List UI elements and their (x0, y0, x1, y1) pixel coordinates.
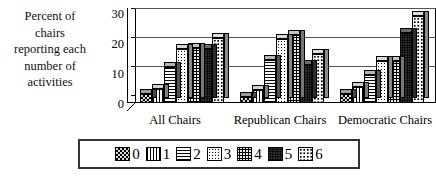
bar-side-face (164, 84, 169, 99)
legend-swatch-6 (298, 147, 313, 161)
bar-republican-chairs-series-0 (240, 97, 252, 103)
legend-item-1[interactable]: 1 (146, 147, 171, 162)
legend-item-5[interactable]: 5 (268, 147, 293, 162)
y-tick-10: 10 (100, 68, 124, 81)
chart-legend: 0123456 (78, 139, 360, 169)
bar-side-face (400, 56, 405, 98)
legend-swatch-1 (146, 147, 161, 161)
bar-side-face (188, 44, 193, 98)
bar-side-face (288, 34, 293, 98)
bar-chart-figure: Percent of chairs reporting each number … (0, 0, 436, 182)
y-tick-30: 30 (100, 8, 124, 21)
plot-area: 30 20 10 0 (100, 8, 436, 112)
bar-group-democratic-chairs (340, 8, 430, 103)
legend-label-4: 4 (254, 147, 262, 162)
legend-label-6: 6 (315, 147, 323, 162)
bar-all-chairs-series-0 (140, 94, 152, 103)
legend-item-0[interactable]: 0 (115, 147, 140, 162)
plot-side-wall (127, 8, 136, 103)
legend-swatch-4 (237, 147, 252, 161)
legend-label-3: 3 (224, 147, 232, 162)
category-label-all-chairs: All Chairs (120, 113, 230, 128)
category-label-republican-chairs: Republican Chairs (220, 113, 340, 128)
y-tick-20: 20 (100, 38, 124, 51)
tick-mark-20 (131, 37, 135, 38)
bar-group-republican-chairs (240, 8, 330, 103)
y-axis-tick-labels: 30 20 10 0 (100, 8, 124, 112)
y-axis-title-line-1: Percent of (2, 8, 98, 25)
bar-front-face (340, 94, 352, 103)
y-tick-0: 0 (100, 98, 124, 111)
bar-side-face (364, 82, 369, 98)
tick-mark-10 (131, 66, 135, 67)
y-axis-title-line-3: reporting each (2, 41, 98, 58)
tick-mark-30 (131, 8, 135, 9)
legend-swatch-0 (115, 147, 130, 161)
bar-side-face (176, 62, 181, 98)
bar-side-face (412, 28, 417, 98)
legend-label-5: 5 (285, 147, 293, 162)
bar-democratic-chairs-series-0 (340, 94, 352, 103)
bar-side-face (376, 70, 381, 98)
bar-series-container (136, 8, 436, 103)
bar-side-face (264, 85, 269, 98)
legend-label-0: 0 (132, 147, 140, 162)
legend-label-1: 1 (163, 147, 171, 162)
bar-side-face (152, 89, 157, 98)
legend-item-6[interactable]: 6 (298, 147, 323, 162)
plot-panel (127, 8, 436, 111)
bar-side-face (224, 33, 229, 98)
x-axis-category-labels: All Chairs Republican Chairs Democratic … (100, 113, 436, 129)
tick-mark-0 (131, 95, 135, 96)
y-axis-title-line-2: chairs (2, 25, 98, 42)
bar-side-face (352, 89, 357, 98)
bar-side-face (212, 44, 217, 98)
bar-side-face (424, 11, 429, 98)
y-axis-title-line-5: activities (2, 74, 98, 91)
bar-side-face (312, 60, 317, 98)
category-label-democratic-chairs: Democratic Chairs (326, 113, 436, 128)
legend-item-2[interactable]: 2 (176, 147, 201, 162)
y-axis-title-line-4: number of (2, 58, 98, 75)
bar-group-all-chairs (140, 8, 230, 103)
bar-side-face (200, 43, 205, 98)
bar-front-face (240, 97, 252, 103)
legend-label-2: 2 (193, 147, 201, 162)
bar-side-face (252, 92, 257, 98)
bar-side-face (276, 55, 281, 99)
plot-floor-diagonal (127, 102, 136, 111)
legend-item-4[interactable]: 4 (237, 147, 262, 162)
bar-side-face (324, 49, 329, 98)
bar-front-face (140, 94, 152, 103)
legend-swatch-5 (268, 147, 283, 161)
legend-swatch-3 (207, 147, 222, 161)
y-axis-title: Percent of chairs reporting each number … (2, 8, 98, 91)
legend-swatch-2 (176, 147, 191, 161)
legend-item-3[interactable]: 3 (207, 147, 232, 162)
bar-side-face (388, 56, 393, 98)
bar-side-face (300, 30, 305, 98)
